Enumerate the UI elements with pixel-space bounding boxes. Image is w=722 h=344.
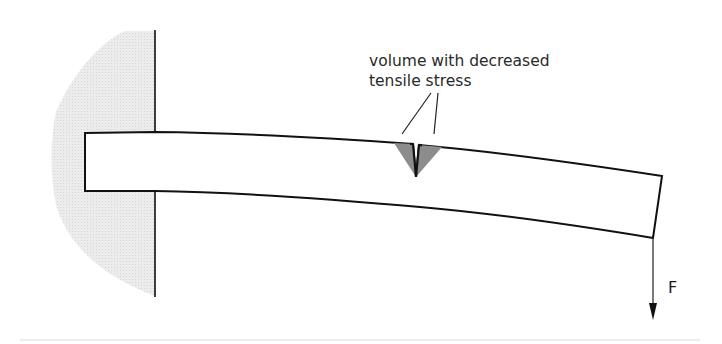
leader-line-left — [402, 93, 431, 134]
cantilever-beam-diagram: volume with decreased tensile stress F — [0, 0, 722, 344]
annotation-line-1: volume with decreased — [369, 52, 550, 70]
beam — [85, 132, 662, 238]
annotation-line-2: tensile stress — [369, 72, 471, 90]
leader-line-right — [434, 93, 438, 134]
force-arrowhead-icon — [649, 303, 657, 320]
force-label: F — [668, 278, 677, 297]
